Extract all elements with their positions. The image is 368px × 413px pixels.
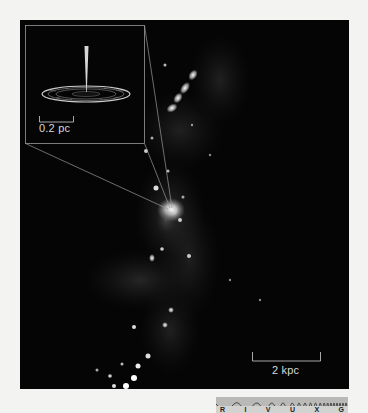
spectrum-strip: R I V U X G bbox=[216, 397, 348, 413]
band-labels: R I V U X G bbox=[216, 406, 348, 413]
band-r: R bbox=[220, 406, 225, 413]
galaxy-image bbox=[20, 20, 349, 389]
band-i: I bbox=[244, 406, 246, 413]
band-g: G bbox=[339, 406, 344, 413]
band-v: V bbox=[266, 406, 271, 413]
galaxy-photo bbox=[20, 20, 349, 389]
wave-icon bbox=[216, 397, 348, 406]
inset-scale-label: 0.2 pc bbox=[39, 122, 70, 134]
band-x: X bbox=[314, 406, 319, 413]
band-u: U bbox=[290, 406, 295, 413]
main-scale-label: 2 kpc bbox=[272, 364, 299, 376]
